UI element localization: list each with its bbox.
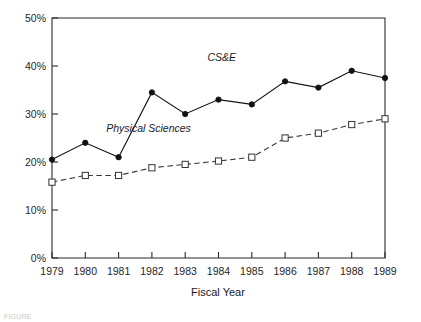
series-label-physical-sciences: Physical Sciences [106, 122, 191, 134]
y-axis-label-20: 20% [25, 156, 46, 168]
x-axis-label-1985: 1985 [240, 265, 264, 277]
y-axis-label-30: 30% [25, 108, 46, 120]
data-point-1989 [382, 75, 387, 80]
y-axis-ticks [52, 18, 58, 258]
series-physical-sciences [49, 116, 388, 186]
data-point-1981 [116, 172, 122, 178]
x-axis-title: Fiscal Year [191, 286, 245, 298]
caption-partial-text: FIGURE [4, 313, 32, 320]
data-point-1982 [149, 90, 154, 95]
chart-container: 50% 40% 30% 20% 10% 0% 19791980198119821… [0, 0, 421, 322]
x-axis-label-1988: 1988 [340, 265, 364, 277]
data-point-1980 [83, 140, 88, 145]
y-axis-label-40: 40% [25, 60, 46, 72]
data-point-1984 [216, 97, 221, 102]
data-point-1979 [49, 157, 54, 162]
y-axis-label-10: 10% [25, 204, 46, 216]
series-cs-e [49, 68, 387, 162]
data-point-1980 [82, 172, 88, 178]
data-point-1982 [149, 165, 155, 171]
x-axis-label-1984: 1984 [207, 265, 231, 277]
x-axis-label-1986: 1986 [273, 265, 297, 277]
data-point-1985 [249, 154, 255, 160]
data-point-1987 [316, 85, 321, 90]
x-axis-label-1982: 1982 [140, 265, 164, 277]
data-point-1985 [249, 102, 254, 107]
data-point-1984 [215, 158, 221, 164]
x-axis-label-1979: 1979 [40, 265, 64, 277]
x-axis-label-1983: 1983 [174, 265, 198, 277]
x-axis-label-1980: 1980 [74, 265, 98, 277]
data-point-1986 [282, 79, 287, 84]
data-point-1988 [349, 68, 354, 73]
data-series-group [49, 68, 388, 185]
series-label-cs-e: CS&E [208, 51, 238, 63]
y-axis-labels: 50% 40% 30% 20% 10% 0% [25, 12, 46, 264]
series-annotations: CS&EPhysical Sciences [106, 51, 237, 134]
cropped-caption: FIGURE [0, 313, 421, 322]
data-point-1979 [49, 179, 55, 185]
y-axis-label-50: 50% [25, 12, 46, 24]
data-point-1989 [382, 116, 388, 122]
series-line [52, 71, 385, 160]
data-point-1987 [315, 130, 321, 136]
data-point-1983 [182, 161, 188, 167]
x-axis-label-1987: 1987 [307, 265, 331, 277]
data-point-1986 [282, 135, 288, 141]
data-point-1988 [349, 121, 355, 127]
y-axis-label-0: 0% [31, 252, 46, 264]
x-axis-label-1981: 1981 [107, 265, 131, 277]
data-point-1981 [116, 155, 121, 160]
data-point-1983 [183, 111, 188, 116]
x-axis: 1979198019811982198319841985198619871988… [40, 252, 397, 277]
line-chart: 50% 40% 30% 20% 10% 0% 19791980198119821… [0, 0, 421, 322]
x-axis-label-1989: 1989 [373, 265, 397, 277]
